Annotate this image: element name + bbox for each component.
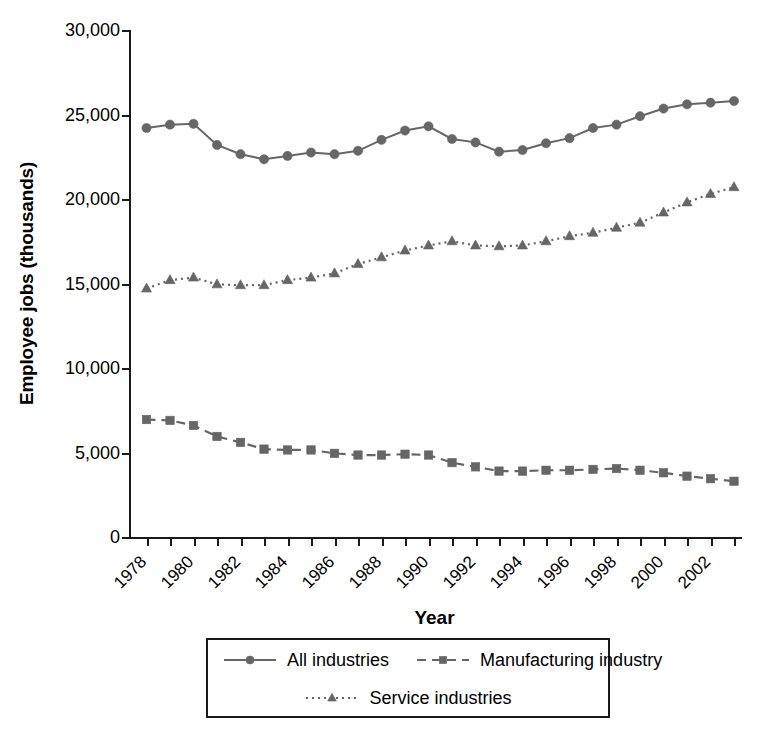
data-point-marker [518, 467, 526, 475]
series-line [147, 101, 735, 159]
data-point-marker [659, 469, 667, 477]
data-point-marker [705, 188, 715, 197]
x-axis-title: Year [129, 607, 740, 629]
data-point-marker [212, 140, 221, 149]
data-point-marker [588, 227, 598, 236]
y-tick-label: 5,000 [32, 444, 120, 462]
data-point-marker [329, 268, 339, 277]
data-point-marker [188, 272, 198, 281]
y-tick-mark [122, 284, 131, 286]
data-point-marker [213, 432, 221, 440]
data-point-marker [376, 252, 386, 261]
y-tick-mark [122, 368, 131, 370]
legend-sample-all-industries-icon [222, 651, 278, 669]
legend-entry-all-industries: All industries [222, 651, 389, 669]
data-point-marker [142, 415, 150, 423]
data-point-marker [611, 222, 621, 231]
data-point-marker [541, 236, 551, 245]
data-point-marker [447, 134, 456, 143]
legend-marker [439, 656, 446, 663]
legend-sample-service-industries-icon [304, 689, 360, 707]
data-point-marker [471, 463, 479, 471]
data-point-marker [283, 151, 292, 160]
data-point-marker [542, 466, 550, 474]
data-point-marker [658, 207, 668, 216]
data-point-marker [706, 474, 714, 482]
data-point-marker [612, 464, 620, 472]
data-point-marker [142, 123, 151, 132]
data-point-marker [470, 240, 480, 249]
data-point-marker [306, 148, 315, 157]
data-point-marker [282, 275, 292, 284]
data-point-marker [236, 150, 245, 159]
legend-label-service-industries: Service industries [369, 689, 511, 707]
data-point-marker [260, 445, 268, 453]
data-point-marker [494, 241, 504, 250]
y-tick-label: 25,000 [32, 106, 120, 124]
data-point-marker [683, 472, 691, 480]
data-point-marker [612, 120, 621, 129]
data-point-marker [635, 112, 644, 121]
data-point-marker [447, 236, 457, 245]
data-point-marker [166, 416, 174, 424]
data-point-marker [424, 451, 432, 459]
data-point-marker [400, 126, 409, 135]
data-point-marker [165, 275, 175, 284]
legend-label-manufacturing-industry: Manufacturing industry [480, 651, 662, 669]
y-tick-mark [122, 453, 131, 455]
data-point-marker [729, 182, 739, 191]
y-tick-mark [122, 30, 131, 32]
y-tick-label: 10,000 [32, 359, 120, 377]
data-point-marker [141, 283, 151, 292]
data-point-marker [353, 259, 363, 268]
data-point-marker [330, 449, 338, 457]
data-point-marker [283, 446, 291, 454]
data-point-marker [423, 240, 433, 249]
data-point-marker [565, 134, 574, 143]
chart-figure: Employee jobs (thousands) 05,00010,00015… [0, 0, 758, 745]
series-line [147, 187, 735, 288]
legend-entry-manufacturing-industry: Manufacturing industry [415, 651, 662, 669]
data-point-marker [353, 146, 362, 155]
data-point-marker [189, 421, 197, 429]
data-point-marker [189, 119, 198, 128]
data-point-marker [588, 123, 597, 132]
data-point-marker [259, 280, 269, 289]
legend-entry-service-industries: Service industries [304, 689, 511, 707]
data-point-marker [589, 465, 597, 473]
y-tick-mark [122, 199, 131, 201]
data-point-marker [330, 150, 339, 159]
data-point-marker [518, 145, 527, 154]
data-point-marker [471, 138, 480, 147]
data-point-marker [424, 122, 433, 131]
data-point-marker [448, 458, 456, 466]
data-point-marker [377, 451, 385, 459]
legend-row-top: All industries Manufacturing industry [208, 640, 622, 680]
x-axis-tick-labels: 1978198019821984198619881990199219941996… [129, 537, 740, 612]
plot-series-svg [131, 30, 742, 537]
series-line [147, 420, 735, 482]
data-point-marker [517, 240, 527, 249]
data-point-marker [729, 96, 738, 105]
series-service-industries [141, 182, 739, 292]
y-tick-label: 30,000 [32, 21, 120, 39]
data-point-marker [306, 272, 316, 281]
data-point-marker [565, 466, 573, 474]
y-tick-label: 0 [32, 528, 120, 546]
chart-legend: All industries Manufacturing industry Se… [206, 638, 610, 718]
data-point-marker [236, 438, 244, 446]
data-point-marker [564, 231, 574, 240]
legend-sample-manufacturing-industry-icon [415, 651, 471, 669]
series-all-industries [142, 96, 739, 164]
data-point-marker [307, 446, 315, 454]
data-point-marker [495, 467, 503, 475]
legend-label-all-industries: All industries [287, 651, 389, 669]
data-point-marker [659, 104, 668, 113]
data-point-marker [682, 100, 691, 109]
data-point-marker [635, 217, 645, 226]
plot-area [129, 30, 742, 539]
data-point-marker [377, 135, 386, 144]
data-point-marker [400, 245, 410, 254]
data-point-marker [636, 466, 644, 474]
y-tick-label: 15,000 [32, 275, 120, 293]
